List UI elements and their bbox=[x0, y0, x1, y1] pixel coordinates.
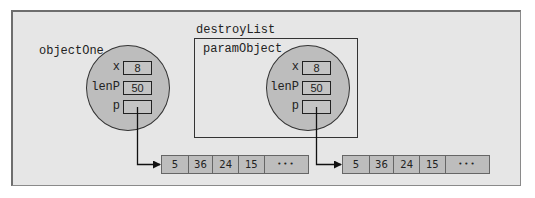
pointer-arrow-icon bbox=[138, 107, 161, 165]
pointer-arrow-icon bbox=[317, 107, 342, 165]
pointer-arrows bbox=[0, 0, 535, 198]
